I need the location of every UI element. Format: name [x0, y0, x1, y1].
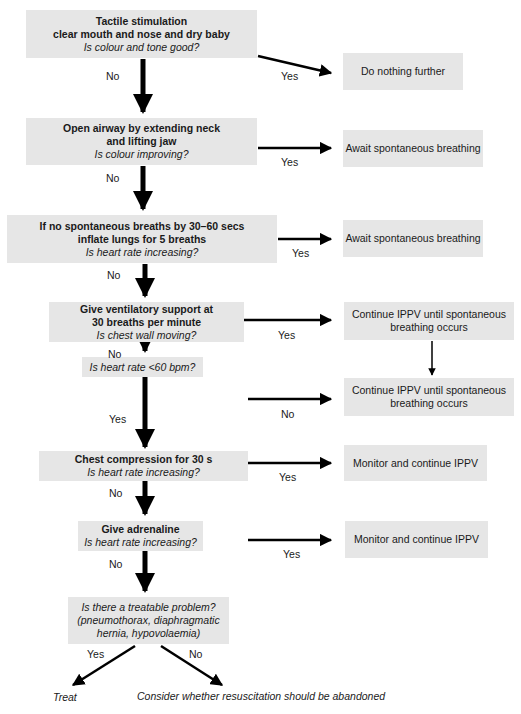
outcome-await-breathing-2: Await spontaneous breathing — [343, 220, 483, 257]
step-title: Tactile stimulation — [96, 15, 187, 28]
label-yes-4: Yes — [278, 329, 295, 341]
label-yes-5: Yes — [109, 413, 126, 425]
step-open-airway: Open airway by extending neck and liftin… — [26, 118, 257, 165]
step-question: Is heart rate increasing? — [84, 536, 197, 549]
step-title: Chest compression for 30 s — [75, 453, 213, 466]
label-yes-1: Yes — [281, 70, 298, 82]
outcome-text: Await spontaneous breathing — [345, 232, 480, 245]
step-question: Is colour and tone good? — [84, 41, 200, 54]
step-chest-compression: Chest compression for 30 s Is heart rate… — [39, 451, 248, 481]
outcome-await-breathing-1: Await spontaneous breathing — [343, 130, 483, 167]
step-question: Is chest wall moving? — [97, 329, 197, 342]
label-yes-3: Yes — [292, 247, 309, 259]
label-yes-7: Yes — [283, 548, 300, 560]
step-title: Give ventilatory support at — [80, 303, 213, 316]
step-title: and lifting jaw — [107, 135, 177, 148]
outcome-continue-ippv-1: Continue IPPV until spontaneous breathin… — [344, 302, 514, 340]
outcome-text: Do nothing further — [361, 65, 445, 78]
label-no-1: No — [106, 70, 119, 82]
step-give-adrenaline: Give adrenaline Is heart rate increasing… — [78, 521, 203, 551]
label-yes-2: Yes — [281, 156, 298, 168]
step-title: Give adrenaline — [101, 523, 179, 536]
final-treat: Treat — [53, 691, 77, 703]
step-question: hernia, hypovolaemia) — [97, 627, 200, 640]
outcome-text: breathing occurs — [390, 397, 468, 410]
outcome-monitor-ippv-1: Monitor and continue IPPV — [344, 445, 487, 481]
outcome-text: breathing occurs — [390, 321, 468, 334]
label-no-6: No — [109, 487, 122, 499]
label-yes-6: Yes — [279, 471, 296, 483]
step-heart-rate-check: Is heart rate <60 bpm? — [82, 357, 203, 377]
final-abandon: Consider whether resuscitation should be… — [137, 690, 385, 702]
step-title: Open airway by extending neck — [63, 122, 220, 135]
step-question: Is heart rate increasing? — [87, 466, 200, 479]
step-ventilatory-support: Give ventilatory support at 30 breaths p… — [49, 302, 244, 342]
label-no-2: No — [106, 172, 119, 184]
outcome-text: Await spontaneous breathing — [345, 142, 480, 155]
step-title: If no spontaneous breaths by 30–60 secs — [40, 220, 245, 233]
outcome-text: Continue IPPV until spontaneous — [352, 384, 506, 397]
outcome-text: Monitor and continue IPPV — [354, 533, 479, 546]
step-title: clear mouth and nose and dry baby — [53, 28, 230, 41]
outcome-continue-ippv-2: Continue IPPV until spontaneous breathin… — [344, 378, 514, 416]
label-no-8: No — [189, 648, 202, 660]
step-question: Is colour improving? — [95, 148, 189, 161]
outcome-do-nothing: Do nothing further — [343, 53, 463, 90]
label-no-4: No — [108, 348, 121, 360]
step-treatable-problem: Is there a treatable problem? (pneumotho… — [68, 597, 229, 644]
step-tactile-stimulation: Tactile stimulation clear mouth and nose… — [26, 10, 257, 58]
label-no-5: No — [281, 408, 294, 420]
step-question: Is heart rate increasing? — [86, 246, 199, 259]
outcome-monitor-ippv-2: Monitor and continue IPPV — [345, 521, 488, 558]
outcome-text: Monitor and continue IPPV — [353, 457, 478, 470]
step-inflate-lungs: If no spontaneous breaths by 30–60 secs … — [7, 215, 277, 263]
step-question: Is there a treatable problem? — [81, 601, 215, 614]
label-no-7: No — [109, 558, 122, 570]
step-title: 30 breaths per minute — [92, 316, 201, 329]
step-question: (pneumothorax, diaphragmatic — [77, 614, 219, 627]
step-question: Is heart rate <60 bpm? — [90, 361, 196, 374]
step-title: inflate lungs for 5 breaths — [78, 233, 206, 246]
outcome-text: Continue IPPV until spontaneous — [352, 308, 506, 321]
label-no-3: No — [107, 269, 120, 281]
label-yes-8: Yes — [87, 648, 104, 660]
